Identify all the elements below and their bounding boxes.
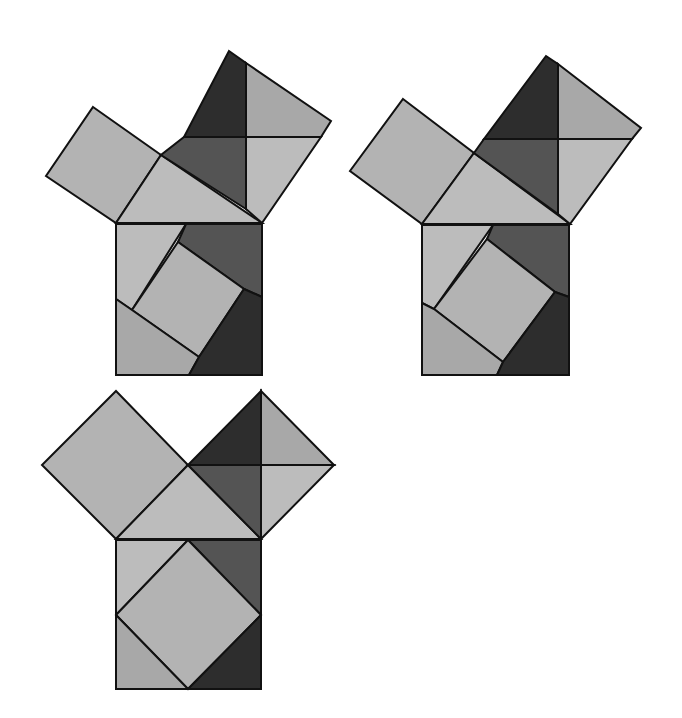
figure-1 <box>46 51 331 375</box>
leg-square-large-bottom-right <box>246 137 321 223</box>
diagram-canvas <box>0 0 682 718</box>
leg-square-large-top-left <box>484 56 558 139</box>
leg-square-right-top-left <box>188 391 261 465</box>
leg-square-large-top-left <box>184 51 246 137</box>
leg-square-large-bottom-right <box>558 139 632 224</box>
leg-square-right-top-right <box>261 391 334 465</box>
figure-2 <box>350 56 641 375</box>
leg-square-large-top-right <box>246 63 331 137</box>
leg-square-right-bottom-right <box>261 465 334 539</box>
figure-3 <box>42 391 334 689</box>
leg-square-large-top-right <box>558 64 641 139</box>
